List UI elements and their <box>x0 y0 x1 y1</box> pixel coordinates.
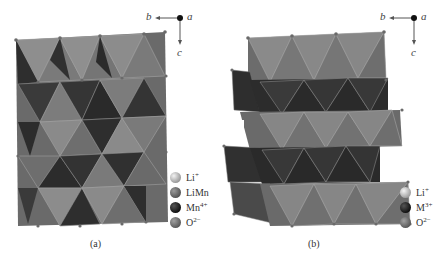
legend-b: Li+ M3+ O2− <box>400 185 432 230</box>
legend-item: Li+ <box>400 185 432 200</box>
li-ion-ball-icon <box>170 172 181 183</box>
li-ion-ball-icon <box>400 187 411 198</box>
legend-label: LiMn <box>186 187 209 198</box>
panel-b: b a c Li+ M3+ O2− (b) <box>220 0 439 259</box>
legend-label: O2− <box>416 217 431 228</box>
caption-a: (a) <box>90 238 101 249</box>
legend-item: Li+ <box>170 170 209 185</box>
axis-label-a: a <box>421 10 427 22</box>
mn4-ion-ball-icon <box>170 202 181 213</box>
legend-item: M3+ <box>400 200 432 215</box>
axis-indicator-b: b a c <box>378 6 438 66</box>
o2-ion-ball-icon <box>170 217 181 228</box>
legend-label: Li+ <box>186 172 199 183</box>
legend-label: Mn4+ <box>186 202 207 213</box>
legend-label: Li+ <box>416 187 429 198</box>
legend-item: LiMn <box>170 185 209 200</box>
axis-label-c: c <box>177 46 182 58</box>
axis-indicator-a: b a c <box>144 6 204 66</box>
o2-ion-ball-icon <box>400 217 411 228</box>
m3-ion-ball-icon <box>400 202 411 213</box>
legend-label: M3+ <box>416 202 432 213</box>
legend-a: Li+ LiMn Mn4+ O2− <box>170 170 209 230</box>
panel-a: b a c Li+ LiMn Mn4+ O2− (a) <box>0 0 220 259</box>
legend-item: Mn4+ <box>170 200 209 215</box>
legend-label: O2− <box>186 217 201 228</box>
axis-label-a: a <box>187 10 193 22</box>
axis-label-b: b <box>146 10 152 22</box>
axis-label-b: b <box>380 10 386 22</box>
legend-item: O2− <box>400 215 432 230</box>
limn-ball-icon <box>170 187 181 198</box>
legend-item: O2− <box>170 215 209 230</box>
axis-label-c: c <box>411 46 416 58</box>
caption-b: (b) <box>308 238 320 249</box>
